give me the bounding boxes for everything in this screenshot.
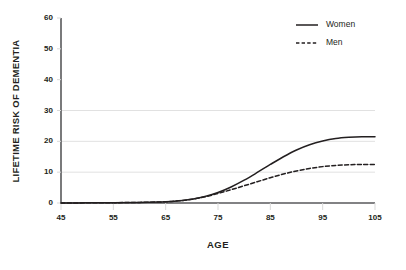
legend-swatches	[296, 25, 318, 43]
legend-label-men: Men	[326, 37, 343, 47]
legend-label-women: Women	[326, 19, 355, 29]
y-tick-label: 60	[15, 13, 53, 22]
series-line-men	[61, 164, 375, 203]
y-tick-label: 20	[15, 136, 53, 145]
chart-canvas	[0, 0, 406, 270]
grid-lines	[61, 111, 375, 173]
data-series	[61, 137, 375, 203]
x-tick-label: 45	[41, 213, 81, 222]
x-tick-label: 55	[93, 213, 133, 222]
x-tick-label: 65	[146, 213, 186, 222]
dementia-risk-chart: LIFETIME RISK OF DEMENTIA 0102030405060 …	[0, 0, 406, 270]
y-tick-label: 0	[15, 198, 53, 207]
x-tick-label: 85	[250, 213, 290, 222]
y-tick-label: 50	[15, 44, 53, 53]
y-tick-label: 30	[15, 106, 53, 115]
x-axis-title: AGE	[158, 239, 278, 250]
y-tick-label: 10	[15, 167, 53, 176]
x-tick-label: 75	[198, 213, 238, 222]
x-tick-label: 95	[303, 213, 343, 222]
y-tick-label: 40	[15, 75, 53, 84]
x-tick-label: 105	[355, 213, 395, 222]
